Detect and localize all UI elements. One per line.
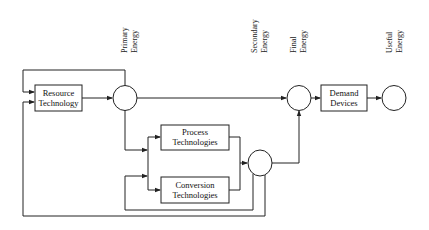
svg-text:Process: Process	[182, 127, 208, 137]
svg-text:Energy: Energy	[299, 30, 308, 53]
merge-line	[229, 137, 240, 190]
svg-text:Energy: Energy	[130, 30, 139, 53]
stage-label-useful: Useful Energy	[385, 30, 404, 53]
svg-text:Technology: Technology	[38, 98, 79, 108]
svg-text:Final: Final	[289, 36, 298, 53]
resource-technology-box: Resource Technology	[35, 85, 82, 111]
svg-text:Technologies: Technologies	[172, 190, 217, 200]
demand-devices-box: Demand Devices	[321, 85, 367, 111]
svg-text:Energy: Energy	[395, 30, 404, 53]
conversion-technologies-box: Conversion Technologies	[161, 177, 229, 203]
secondary-energy-node	[248, 150, 272, 176]
svg-text:Demand: Demand	[330, 88, 360, 98]
svg-text:Secondary: Secondary	[250, 19, 259, 53]
flow-secondary-to-final	[272, 111, 299, 163]
svg-text:Conversion: Conversion	[175, 180, 215, 190]
primary-energy-node	[113, 86, 137, 111]
useful-energy-node	[382, 86, 406, 111]
stage-label-final: Final Energy	[289, 30, 308, 53]
svg-text:Devices: Devices	[330, 98, 357, 108]
stage-label-secondary: Secondary Energy	[250, 19, 269, 53]
svg-text:Resource: Resource	[43, 88, 75, 98]
stage-label-primary: Primary Energy	[120, 27, 139, 53]
svg-text:Primary: Primary	[120, 27, 129, 53]
process-technologies-box: Process Technologies	[161, 125, 229, 150]
svg-text:Energy: Energy	[260, 30, 269, 53]
svg-text:Useful: Useful	[385, 31, 394, 53]
energy-flow-diagram: Primary Energy Secondary Energy Final En…	[0, 0, 429, 230]
svg-text:Technologies: Technologies	[172, 137, 217, 147]
flow-primary-down	[125, 110, 147, 150]
final-energy-node	[287, 86, 311, 111]
